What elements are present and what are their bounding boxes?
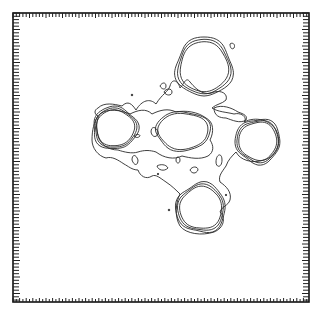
contour-lines bbox=[92, 43, 279, 234]
contour-islet-10 bbox=[160, 83, 166, 89]
contour-level-1 bbox=[155, 112, 210, 152]
contour-level-3 bbox=[180, 42, 229, 92]
contour-islet-9 bbox=[230, 43, 235, 49]
contour-dot-2 bbox=[168, 209, 170, 211]
contour-peaks bbox=[94, 37, 280, 233]
contour-plot bbox=[0, 0, 322, 314]
contour-dot-3 bbox=[225, 194, 226, 195]
axis-ticks bbox=[13, 13, 309, 302]
peak-bottom bbox=[175, 182, 225, 233]
contour-islet-4 bbox=[132, 156, 138, 165]
contour-level-2 bbox=[177, 39, 231, 94]
contour-level-1 bbox=[175, 37, 234, 96]
peak-center bbox=[155, 112, 210, 152]
contour-level-2 bbox=[158, 113, 208, 149]
contour-islet-6 bbox=[216, 155, 222, 166]
plot-border bbox=[13, 13, 309, 302]
contour-mid-left-center bbox=[97, 110, 213, 158]
peak-top bbox=[175, 37, 234, 96]
contour-dot-1 bbox=[131, 94, 133, 96]
contour-level-2 bbox=[237, 121, 279, 163]
contour-islet-8 bbox=[190, 167, 198, 173]
contour-dot-4 bbox=[157, 173, 158, 174]
contour-islet-7 bbox=[157, 165, 168, 170]
plot-frame bbox=[13, 13, 309, 302]
